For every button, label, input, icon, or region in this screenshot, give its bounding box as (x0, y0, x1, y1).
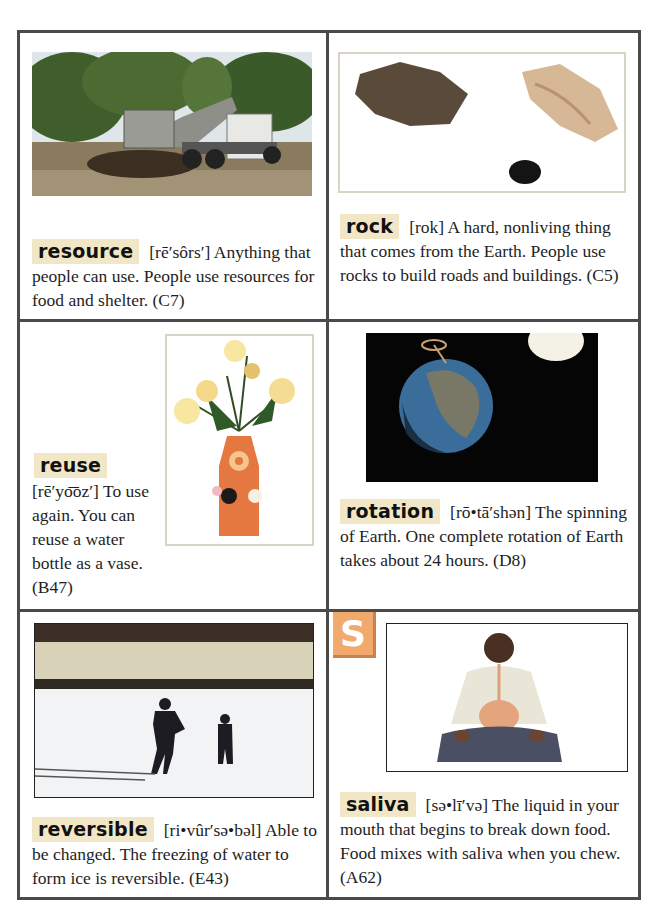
bottle-vase-image (165, 334, 314, 546)
page-ref: (E43) (189, 868, 229, 888)
entry-text: [rē′yo͞oz′] To use again. You can reuse … (32, 479, 150, 599)
term-label: rotation (340, 499, 440, 524)
pronunciation: [rē′sôrs′] (149, 242, 210, 262)
page-ref: (B47) (32, 577, 73, 597)
pronunciation: [rok] (409, 217, 444, 237)
rocks-image (338, 52, 626, 193)
page-ref: (C5) (586, 265, 618, 285)
entry-term-row: reuse (34, 453, 117, 478)
entry-text: resource[rē′sôrs′] Anything that people … (32, 239, 322, 312)
entry-text: rotation[rō•tā′shən] The spinning of Ear… (340, 499, 640, 572)
pronunciation: [ri•vûr′sə•bəl] (164, 820, 262, 840)
page-ref: (D8) (493, 550, 526, 570)
pronunciation: [rē′yo͞oz′] (32, 481, 99, 501)
term-label: reuse (34, 453, 107, 478)
entry-text: rock[rok] A hard, nonliving thing that c… (340, 214, 635, 287)
earth-rotation-image (366, 333, 598, 482)
digestive-system-image (386, 623, 628, 772)
dump-truck-image (32, 52, 312, 196)
term-label: rock (340, 214, 399, 239)
term-label: reversible (32, 817, 154, 842)
pronunciation: [sə•lī′və] (426, 795, 488, 815)
section-letter-badge: S (333, 612, 376, 658)
entry-text: saliva[sə•lī′və] The liquid in your mout… (340, 792, 640, 889)
page-ref: (C7) (153, 290, 185, 310)
entry-text: reversible[ri•vûr′sə•bəl] Able to be cha… (32, 817, 327, 890)
row-divider-1 (17, 319, 641, 322)
term-label: saliva (340, 792, 416, 817)
column-divider (326, 30, 329, 900)
page-ref: (A62) (340, 867, 382, 887)
pronunciation: [rō•tā′shən] (450, 502, 531, 522)
ice-skating-image (34, 623, 314, 798)
row-divider-2 (17, 609, 641, 612)
term-label: resource (32, 239, 139, 264)
